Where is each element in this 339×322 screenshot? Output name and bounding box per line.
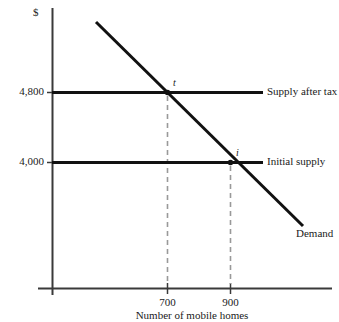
annotation-label-i: i (236, 148, 239, 158)
series-label-supply-after-tax: Supply after tax (267, 86, 337, 97)
x-tick-label-700: 700 (143, 297, 192, 308)
series-demand-line (96, 22, 303, 226)
x-tick-label-900: 900 (206, 297, 255, 308)
y-tick-label-4000: 4,000 (0, 156, 44, 167)
y-axis-unit-label: $ (33, 7, 39, 18)
supply-demand-chart: $ 4,800 4,000 700 900 Number of mobile h… (0, 0, 339, 322)
annotation-label-t: t (173, 78, 176, 88)
series-label-initial-supply: Initial supply (267, 156, 325, 167)
y-tick-label-4800: 4,800 (0, 86, 44, 97)
point-marker-i (228, 160, 234, 166)
point-marker-t (165, 90, 171, 96)
x-axis-title: Number of mobile homes (113, 310, 271, 321)
series-label-demand: Demand (296, 228, 333, 239)
